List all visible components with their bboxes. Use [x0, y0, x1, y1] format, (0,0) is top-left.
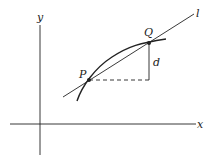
curve — [77, 39, 166, 101]
point-q-label: Q — [144, 26, 153, 39]
x-axis-label: x — [197, 118, 204, 131]
distance-d-label: d — [153, 56, 160, 69]
line-l-label: l — [196, 7, 200, 20]
point-p-label: P — [78, 68, 87, 81]
point-q-dot — [147, 41, 151, 45]
secant-line-l — [63, 14, 194, 97]
y-axis-label: y — [36, 11, 44, 24]
tangent-secant-diagram: y x l d P Q — [0, 0, 211, 164]
point-p-dot — [87, 78, 91, 82]
